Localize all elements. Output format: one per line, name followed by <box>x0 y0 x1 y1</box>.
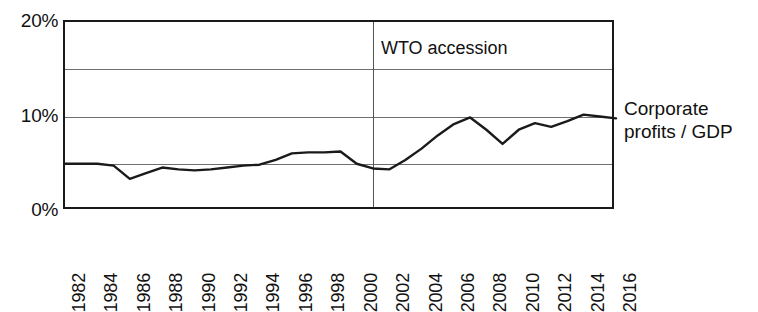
series-label: Corporate profits / GDP <box>624 97 758 143</box>
x-tick-label-1996: 1996 <box>297 273 315 312</box>
x-tick-label-1986: 1986 <box>135 273 153 312</box>
x-tick-label-1984: 1984 <box>102 273 120 312</box>
x-tick-label-2004: 2004 <box>427 273 445 312</box>
y-tick-label-20: 20% <box>21 11 58 30</box>
x-tick-label-2000: 2000 <box>362 273 380 312</box>
x-tick-label-2010: 2010 <box>524 273 542 312</box>
series-label-line-2: profits / GDP <box>624 120 758 143</box>
x-tick-label-1998: 1998 <box>329 273 347 312</box>
x-tick-label-2016: 2016 <box>621 273 639 312</box>
plot-area: WTO accession <box>63 20 614 209</box>
x-tick-label-2006: 2006 <box>459 273 477 312</box>
plot-inner: WTO accession <box>65 22 612 207</box>
x-tick-label-1992: 1992 <box>232 273 250 312</box>
x-tick-label-1982: 1982 <box>70 273 88 312</box>
x-tick-label-2008: 2008 <box>491 273 509 312</box>
y-axis: 20% 10% 0% <box>0 0 58 277</box>
x-tick-label-1990: 1990 <box>200 273 218 312</box>
x-tick-label-2002: 2002 <box>394 273 412 312</box>
series-label-line-1: Corporate <box>624 97 758 120</box>
series-polyline <box>65 115 616 179</box>
x-tick-label-2012: 2012 <box>556 273 574 312</box>
y-tick-label-0: 0% <box>31 200 58 219</box>
x-tick-label-2014: 2014 <box>589 273 607 312</box>
x-tick-label-1994: 1994 <box>264 273 282 312</box>
series-line-chart <box>65 22 612 207</box>
y-tick-label-10: 10% <box>21 106 58 125</box>
x-axis: 1982198419861988199019921994199619982000… <box>63 211 614 277</box>
x-tick-label-1988: 1988 <box>167 273 185 312</box>
